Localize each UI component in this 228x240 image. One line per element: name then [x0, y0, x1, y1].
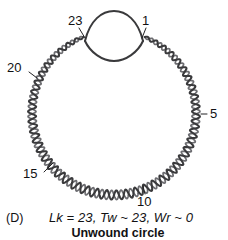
caption-formula: Lk = 23, Tw ~ 23, Wr ~ 0: [0, 210, 228, 225]
caption-subtitle: Unwound circle: [0, 226, 228, 240]
tick-label: 15: [23, 167, 37, 180]
figure-caption: (D) Lk = 23, Tw ~ 23, Wr ~ 0 Unwound cir…: [0, 208, 228, 240]
tick-label: 5: [210, 107, 217, 120]
tick-label: 20: [7, 61, 21, 74]
tick-label: 1: [142, 14, 149, 27]
unwound-bubble-region: [85, 11, 143, 61]
dna-topology-figure: 23 1 5 10 15 20 (D) Lk = 23, Tw ~ 23, Wr…: [0, 0, 228, 240]
bubble-upper-strand: [85, 11, 143, 41]
tick-label: 10: [137, 195, 151, 208]
dna-circle-diagram: [0, 0, 228, 240]
bubble-lower-strand: [85, 41, 143, 61]
label-leader-line: [29, 72, 37, 78]
tick-label: 23: [68, 14, 82, 27]
